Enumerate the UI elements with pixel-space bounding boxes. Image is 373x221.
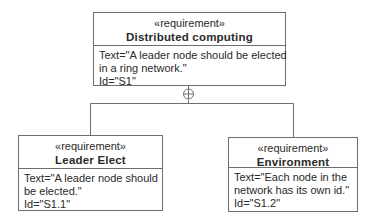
text-property-line-1: Text="Each node in the: [234, 171, 353, 184]
stereotype-label: «requirement»: [229, 138, 357, 155]
requirement-distributed-computing[interactable]: «requirement» Distributed computing Text…: [93, 12, 286, 86]
requirement-header: «requirement» Environment: [229, 138, 357, 168]
text-property-line-2: network has its own id.": [234, 184, 353, 197]
id-property: Id="S1.1": [24, 198, 158, 211]
requirement-header: «requirement» Leader Elect: [19, 136, 162, 169]
stereotype-label: «requirement»: [94, 13, 285, 30]
requirement-properties: Text="Each node in the network has its o…: [229, 168, 357, 210]
text-property-line-1: Text="A leader node should be elected: [99, 49, 281, 62]
requirement-header: «requirement» Distributed computing: [94, 13, 285, 46]
requirement-name: Leader Elect: [19, 153, 162, 167]
id-property: Id="S1.2": [234, 197, 353, 210]
requirement-leader-elect[interactable]: «requirement» Leader Elect Text="A leade…: [18, 135, 163, 211]
text-property-line-1: Text="A leader node should: [24, 172, 158, 185]
stereotype-label: «requirement»: [19, 136, 162, 153]
requirement-environment[interactable]: «requirement» Environment Text="Each nod…: [228, 137, 358, 212]
text-property-line-2: in a ring network.": [99, 62, 281, 75]
id-property: Id="S1": [99, 75, 281, 88]
text-property-line-2: be elected.": [24, 185, 158, 198]
requirement-name: Environment: [229, 155, 357, 169]
requirement-name: Distributed computing: [94, 30, 285, 44]
requirement-properties: Text="A leader node should be elected." …: [19, 169, 162, 211]
circle-plus-icon: [184, 89, 194, 99]
requirement-properties: Text="A leader node should be elected in…: [94, 46, 285, 88]
